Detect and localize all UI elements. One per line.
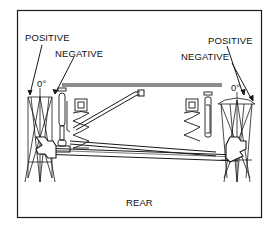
left-wheel bbox=[25, 88, 55, 182]
track-bar bbox=[73, 90, 144, 130]
label-left-zero: 0° bbox=[37, 78, 46, 89]
right-spring bbox=[184, 99, 200, 141]
left-shock bbox=[58, 88, 66, 146]
right-shock bbox=[204, 92, 212, 137]
label-left-negative: NEGATIVE bbox=[55, 48, 103, 59]
label-right-zero: 0° bbox=[231, 82, 240, 93]
label-left-positive: POSITIVE bbox=[25, 32, 70, 43]
label-right-negative: NEGATIVE bbox=[181, 51, 229, 62]
label-rear: REAR bbox=[126, 197, 153, 208]
label-right-positive: POSITIVE bbox=[208, 35, 253, 46]
right-hub bbox=[226, 137, 246, 162]
chassis-rail bbox=[62, 84, 222, 86]
